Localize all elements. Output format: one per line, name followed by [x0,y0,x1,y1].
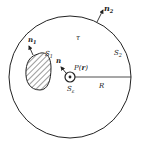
p-r-label: P(r) [73,63,88,72]
n-label: n [56,56,61,65]
diagram-canvas: n2 n1 S1 τ S2 n P(r) Sε R [0,0,143,152]
tau-label: τ [76,34,80,42]
inner-body-s1 [26,53,51,90]
n2-arrow [97,10,103,22]
n-arrow [61,67,66,73]
n1-arrow [29,46,33,55]
s1-label: S1 [45,50,53,59]
s-epsilon-label: Sε [67,85,75,94]
point-p [69,76,72,79]
n1-label: n1 [28,35,37,45]
radius-label: R [98,82,105,90]
n2-label: n2 [104,3,114,14]
s2-label: S2 [114,49,122,58]
